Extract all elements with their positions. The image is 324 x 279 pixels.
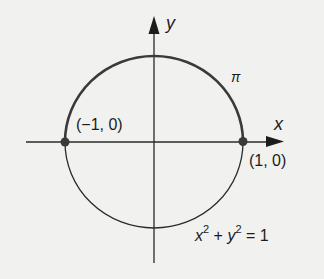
equation-x: x <box>195 227 203 244</box>
y-axis-arrow-icon <box>149 16 160 34</box>
point-negative-one-zero <box>61 138 70 147</box>
unit-circle-diagram <box>0 0 324 279</box>
equation-x-exponent: 2 <box>203 223 209 235</box>
equation-y-exponent: 2 <box>235 223 241 235</box>
y-axis-label: y <box>166 14 175 32</box>
equation-plus: + <box>214 227 223 244</box>
arc-length-label: π <box>231 70 240 84</box>
x-axis-label: x <box>274 115 283 133</box>
point-label-one: (1, 0) <box>249 153 286 169</box>
circle-equation: x2 + y2 = 1 <box>195 226 269 244</box>
x-axis-arrow-icon <box>266 136 284 147</box>
equation-equals: = 1 <box>246 227 269 244</box>
point-one-zero <box>239 137 248 146</box>
point-label-negative-one: (−1, 0) <box>76 117 123 133</box>
